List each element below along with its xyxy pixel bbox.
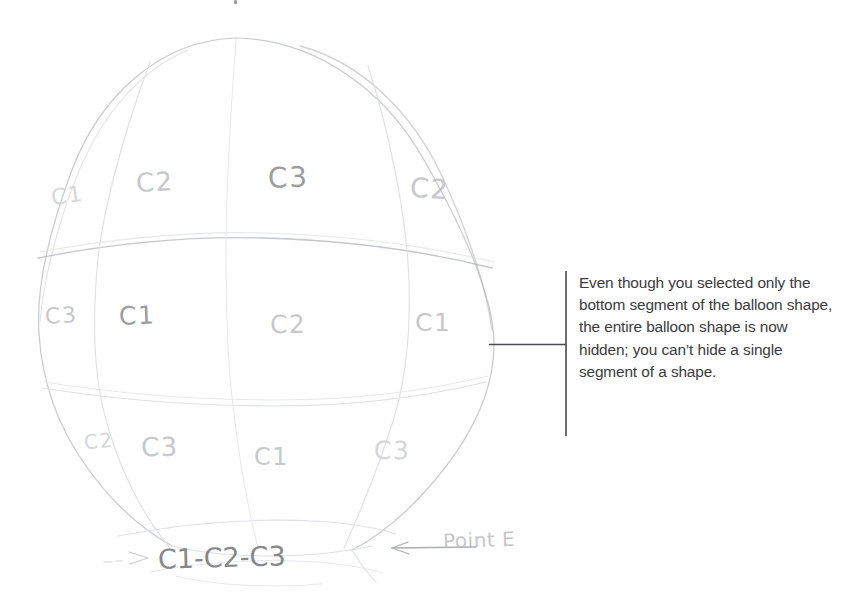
seam-vertical-3 <box>344 66 409 548</box>
segment-label-mid-3: C2 <box>270 310 307 340</box>
segment-label-top-2: C2 <box>135 166 174 198</box>
segment-label-top-3: C3 <box>267 160 309 194</box>
bottom-segment-annotation: C1-C2-C3 <box>158 540 286 574</box>
segment-label-low-3: C1 <box>254 443 289 471</box>
seam-horizontal-lower <box>42 376 488 406</box>
segment-label-mid-2: C1 <box>119 300 156 330</box>
callout-leader <box>489 271 566 436</box>
seam-horizontal-upper <box>38 233 494 268</box>
segment-label-top-1: C1 <box>49 181 85 210</box>
segment-label-mid-1: C3 <box>44 302 78 329</box>
figure-root: .pl { fill:none; stroke:#c9cbcf; stroke-… <box>0 0 852 615</box>
handwritten-chevron <box>104 552 148 564</box>
point-annotation: Point E <box>443 527 516 554</box>
callout-text: Even though you selected only the bottom… <box>579 272 841 383</box>
segment-label-low-2: C3 <box>141 432 179 463</box>
segment-label-low-1: C2 <box>83 428 115 455</box>
segment-label-top-4: C2 <box>409 172 450 206</box>
balloon-outline <box>39 38 494 550</box>
segment-label-mid-4: C1 <box>415 308 451 337</box>
callout-block: Even though you selected only the bottom… <box>579 272 841 383</box>
segment-label-low-4: C3 <box>374 436 411 466</box>
seam-vertical-2 <box>226 40 258 548</box>
